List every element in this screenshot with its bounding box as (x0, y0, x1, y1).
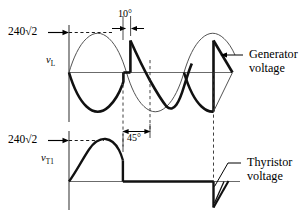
firing-angle-label: 45° (127, 133, 141, 144)
thyristor-voltage-rise (69, 139, 123, 182)
thyristor-voltage-annotation: Thyristor voltage (247, 155, 292, 183)
top-signal-label: vL (46, 54, 55, 69)
bottom-signal-subscript: T1 (46, 158, 54, 166)
thyristor-voltage-annotation-line2: voltage (247, 169, 292, 183)
load-voltage-segment-2 (130, 41, 191, 109)
generator-sine-closing-line (214, 73, 233, 112)
bottom-amplitude-arrow (48, 138, 69, 143)
generator-voltage-annotation-line1: Generator (249, 47, 298, 61)
load-voltage-segment-1 (69, 73, 123, 112)
top-amplitude-arrow (48, 30, 69, 35)
generator-voltage-annotation: Generator voltage (249, 47, 298, 75)
generator-voltage-annotation-line2: voltage (249, 61, 298, 75)
overlap-angle-label: 10° (118, 9, 132, 20)
bottom-amplitude-label: 240√2 (8, 133, 37, 145)
top-amplitude-label: 240√2 (8, 25, 37, 37)
waveform-diagram (0, 0, 303, 224)
load-voltage-segment-3 (184, 73, 214, 112)
top-signal-subscript: L (51, 60, 56, 68)
thyristor-voltage-annotation-line1: Thyristor (247, 155, 292, 169)
waveform-figure: 240√2 vL 10° Generator voltage 240√2 vT1… (0, 0, 303, 224)
bottom-signal-label: vT1 (41, 152, 54, 167)
